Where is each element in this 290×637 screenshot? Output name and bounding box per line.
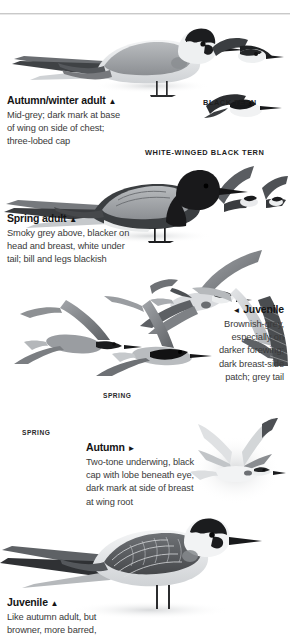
caption-line: of wing on side of chest;	[7, 122, 157, 135]
caption-line: dark mark at side of breast	[86, 482, 236, 495]
bird-study-white-winged-flight-b	[262, 176, 288, 208]
top-horizontal-rule-shadow	[0, 14, 290, 15]
bird-study-top-right-a	[212, 38, 284, 63]
caption-juvenile-right: ◄ Juvenile Brownish-grey, especially on …	[186, 303, 284, 384]
species-label-black-tern: BLACK TERN	[203, 98, 257, 107]
caption-line: browner, more barred,	[7, 624, 157, 637]
caption-heading-text: Juvenile	[7, 596, 48, 608]
caption-heading: ◄ Juvenile	[186, 303, 284, 316]
caption-line: patch; grey tail	[186, 371, 284, 384]
bird-study-white-winged-flight-a	[216, 166, 258, 212]
bird-spring-flight-left	[14, 300, 142, 364]
caption-line: Smoky grey above, blacker on	[7, 227, 162, 240]
caption-heading-text: Juvenile	[243, 303, 284, 315]
triangle-up-icon: ▲	[51, 600, 59, 608]
caption-heading-text: Autumn/winter adult	[7, 94, 106, 106]
triangle-right-icon: ►	[128, 445, 136, 453]
caption-heading: Autumn/winter adult ▲	[7, 94, 157, 107]
caption-line: cap with lobe beneath eye,	[86, 469, 236, 482]
caption-autumn: Autumn ► Two-tone underwing, black cap w…	[86, 441, 236, 509]
caption-line: at wing root	[86, 496, 236, 509]
plate-label-spring-centre: SPRING	[103, 392, 131, 399]
plate-label-spring-left: SPRING	[22, 429, 50, 436]
caption-line: tail; bill and legs blackish	[7, 253, 162, 266]
caption-line: dark breast-side	[186, 358, 284, 371]
caption-autumn-winter-adult: Autumn/winter adult ▲ Mid-grey; dark mar…	[7, 94, 157, 149]
caption-line: Like autumn adult, but	[7, 611, 157, 624]
caption-line: head and breast, white under	[7, 240, 162, 253]
bird-autumn-winter-adult-perched	[12, 28, 244, 97]
caption-spring-adult: Spring adult ▲ Smoky grey above, blacker…	[7, 212, 162, 267]
field-guide-page: Autumn/winter adult ▲ Mid-grey; dark mar…	[0, 0, 290, 637]
caption-juvenile-bottom: Juvenile ▲ Like autumn adult, but browne…	[7, 596, 157, 637]
caption-line: darker forewing;	[186, 344, 284, 357]
caption-heading: Juvenile ▲	[7, 596, 157, 609]
triangle-left-icon: ◄	[233, 307, 241, 315]
caption-line: Two-tone underwing, black	[86, 456, 236, 469]
caption-heading-text: Spring adult	[7, 212, 66, 224]
caption-heading: Spring adult ▲	[7, 212, 162, 225]
triangle-up-icon: ▲	[108, 98, 116, 106]
caption-line: Mid-grey; dark mark at base	[7, 109, 157, 122]
caption-heading-text: Autumn	[86, 441, 125, 453]
caption-line: Brownish-grey,	[186, 318, 284, 331]
caption-line: three-lobed cap	[7, 135, 157, 148]
caption-heading: Autumn ►	[86, 441, 236, 454]
bird-juvenile-distant-silhouette	[150, 279, 192, 298]
caption-line: especially on	[186, 331, 284, 344]
species-label-white-winged-black-tern: WHITE-WINGED BLACK TERN	[145, 148, 264, 157]
triangle-up-icon: ▲	[69, 216, 77, 224]
